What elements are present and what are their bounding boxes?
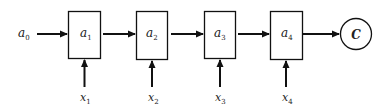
node-a2: a2: [137, 12, 168, 60]
input-x4-label: x4: [282, 91, 293, 106]
initial-state-label: a0: [18, 26, 30, 42]
output-node-c: C: [341, 19, 372, 50]
node-a3: a3: [205, 12, 236, 59]
svg-text:C: C: [351, 28, 361, 42]
node-a4: a4: [271, 12, 303, 60]
rnn-diagram: a0 a1 x1 a2 x2 a3 x3 a4 x4 C: [0, 0, 386, 111]
input-x1-label: x1: [80, 91, 91, 106]
node-a1: a1: [69, 12, 101, 59]
input-x3-label: x3: [215, 91, 226, 106]
input-x2-label: x2: [148, 91, 159, 106]
